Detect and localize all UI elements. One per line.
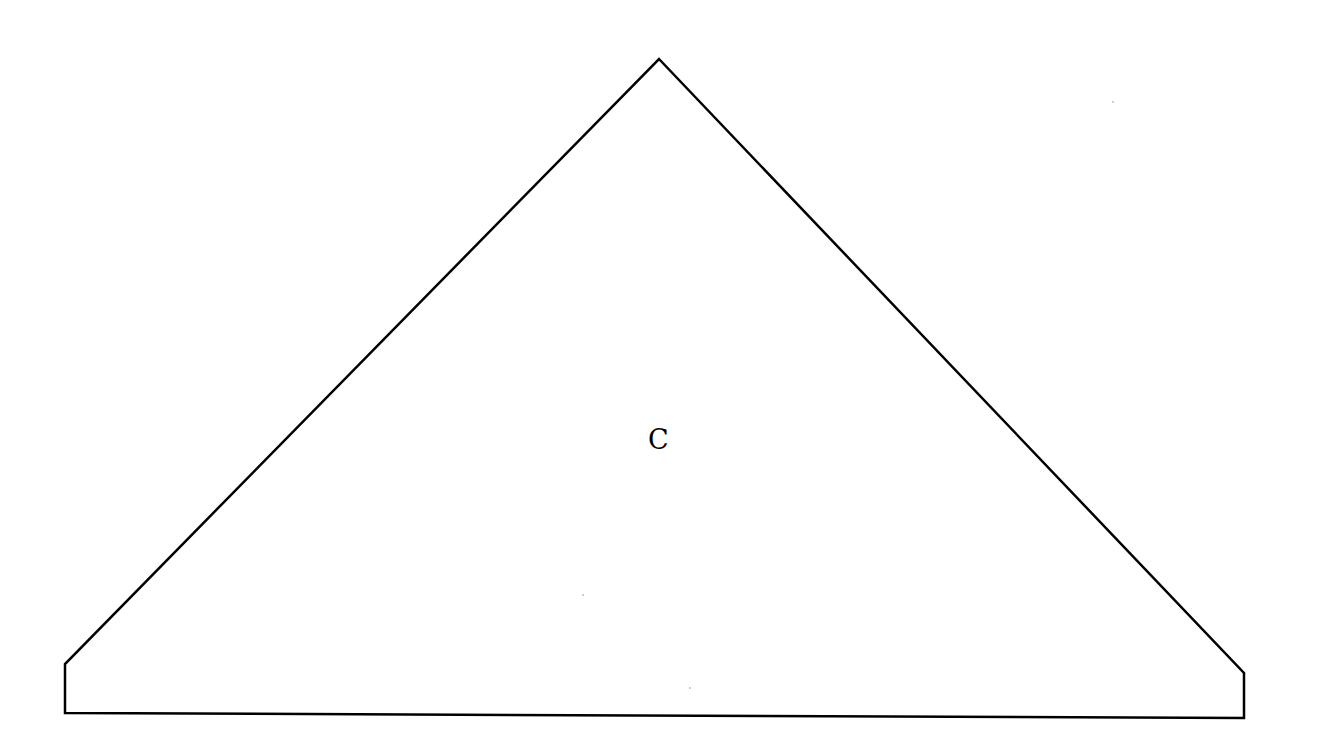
diagram-canvas (0, 0, 1317, 753)
scan-speck (582, 594, 584, 596)
pentagon-shape (65, 59, 1244, 718)
scan-speck (1112, 101, 1114, 103)
shape-label: C (648, 426, 669, 453)
scan-speck (689, 687, 691, 689)
